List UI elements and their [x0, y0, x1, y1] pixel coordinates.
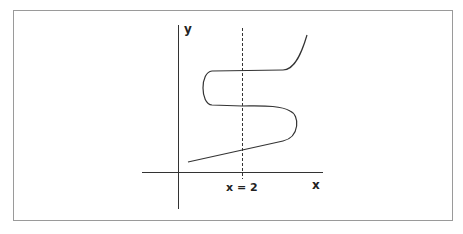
graph	[0, 0, 463, 234]
s-curve	[188, 35, 307, 162]
y-axis-label: y	[184, 22, 192, 36]
x-axis-label: x	[312, 178, 320, 192]
vertical-line-label: x = 2	[226, 181, 258, 194]
